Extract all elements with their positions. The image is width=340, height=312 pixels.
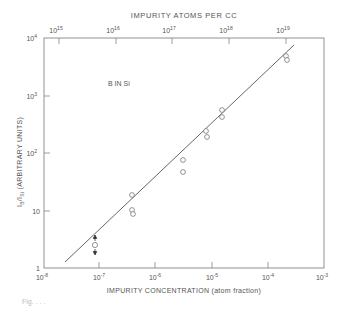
figure-caption: Fig. . . . [22,298,322,310]
y-tick-label: 102 [26,148,37,157]
data-point [130,193,135,198]
data-point [204,129,209,134]
y-tick-label: 103 [26,91,37,100]
x-tick-label: 10-7 [93,272,105,281]
data-point [92,242,97,247]
x-tick-label: 10-8 [36,272,48,281]
y-tick-label: 10 [32,208,40,215]
chart: IMPURITY ATOMS PER CC 1015 1016 1017 101… [0,0,340,312]
annotation-b-in-si: B IN Si [108,80,130,87]
data-point [181,158,186,163]
top-tick-label: 1017 [162,25,176,34]
top-tick-label: 1018 [219,25,233,34]
data-point [131,212,136,217]
x-tick-label: 10-3 [316,272,328,281]
data-point [285,58,290,63]
x-tick-label: 10-5 [206,272,218,281]
x-tick-label: 10-4 [262,272,274,281]
data-point [181,170,186,175]
top-tick-label: 1019 [276,25,290,34]
top-axis-title: IMPURITY ATOMS PER CC [131,11,237,20]
y-tick-label: 1 [36,265,40,272]
arrow-up-icon [93,235,96,239]
top-tick-label: 1016 [106,25,120,34]
y-tick-label: 104 [26,33,37,42]
y-axis: 1 10 102 103 104 [26,33,50,272]
data-point [220,115,225,120]
data-point [205,135,210,140]
top-tick-label: 1015 [49,25,63,34]
y-axis-title: IB/ISi (ARBITRARY UNITS) [16,117,25,207]
x-tick-label: 10-6 [149,272,161,281]
arrow-down-icon [93,252,96,256]
x-axis-title: IMPURITY CONCENTRATION (atom fraction) [107,287,261,295]
plot-frame [44,38,324,268]
data-point [220,108,225,113]
fit-line [65,45,294,262]
top-axis: 1015 1016 1017 1018 1019 [49,25,290,44]
x-axis: 10-8 10-7 10-6 10-5 10-4 10-3 [36,262,328,281]
